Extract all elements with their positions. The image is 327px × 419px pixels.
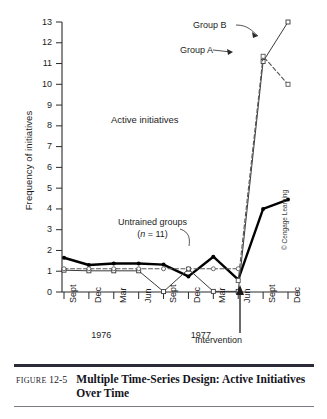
figure-caption-block: Figure 12-5 Multiple Time-Series Design:…: [14, 364, 314, 407]
x-tick-label: Mar: [217, 288, 227, 304]
y-tick-label: 9: [32, 101, 52, 110]
y-tick-label: 1: [32, 267, 52, 276]
untrained-groups-line1: Untrained groups: [118, 217, 187, 227]
year-label: 1976: [81, 330, 121, 340]
y-tick-label: 3: [32, 225, 52, 234]
untrained-groups-line2: (n = 11): [137, 229, 168, 239]
y-tick-label: 6: [32, 163, 52, 172]
figure-caption-text: Multiple Time-Series Design: Active Init…: [76, 372, 314, 400]
y-tick-label: 2: [32, 246, 52, 255]
time-series-chart: [0, 0, 327, 355]
figure-label: Figure 12-5: [16, 372, 67, 400]
x-tick-label: Jun: [143, 288, 153, 303]
figure-container: Frequency of initiatives 012345678910111…: [0, 0, 327, 419]
y-axis-ticks: [56, 22, 62, 292]
intervention-label: Intervention: [195, 335, 242, 345]
x-tick-label: Sept: [267, 284, 277, 303]
chart-plot-area: Frequency of initiatives 012345678910111…: [0, 0, 327, 355]
group-a-label: Group A: [180, 45, 213, 55]
figure-number: 12-5: [49, 374, 67, 385]
group-b-label: Group B: [193, 20, 227, 30]
y-tick-label: 7: [32, 142, 52, 151]
x-tick-label: Jun: [242, 288, 252, 303]
series-group-b: [62, 20, 290, 294]
caption-rule-bottom: [14, 406, 314, 407]
x-tick-label: Dec: [93, 287, 103, 303]
y-tick-label: 13: [32, 18, 52, 27]
x-tick-label: Dec: [192, 287, 202, 303]
x-tick-label: Sept: [168, 284, 178, 303]
y-tick-label: 8: [32, 121, 52, 130]
series-untrained-groups-n-11-: [62, 267, 240, 271]
chart-series-layer: [62, 20, 290, 294]
y-tick-label: 10: [32, 80, 52, 89]
y-tick-label: 12: [32, 38, 52, 47]
y-tick-label: 4: [32, 204, 52, 213]
y-tick-label: 0: [32, 288, 52, 297]
active-initiatives-annotation: Active initiatives: [111, 114, 179, 125]
group-a-arrowhead: [227, 49, 233, 55]
copyright-notice: © Cengage Learning: [281, 160, 288, 250]
y-tick-label: 11: [32, 59, 52, 68]
figure-label-prefix: Figure: [16, 376, 47, 385]
untrained-groups-annotation: Untrained groups (n = 11): [118, 216, 187, 240]
x-tick-label: Mar: [118, 288, 128, 304]
x-tick-label: Sept: [68, 284, 78, 303]
x-tick-label: Dec: [292, 287, 302, 303]
y-tick-label: 5: [32, 184, 52, 193]
y-axis-title: Frequency of initiatives: [23, 71, 34, 251]
